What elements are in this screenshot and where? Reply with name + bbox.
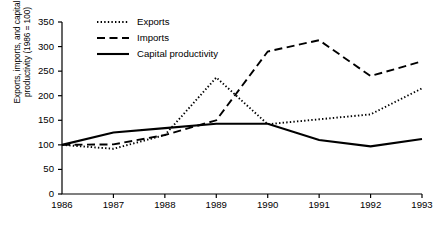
legend-label: Exports (137, 17, 170, 27)
legend-swatch-icon (96, 49, 130, 59)
series-line (62, 78, 422, 149)
line-chart: Exports, imports, and capital productivi… (0, 0, 443, 229)
legend-label: Capital productivity (137, 49, 218, 59)
legend-label: Imports (137, 33, 169, 43)
legend-swatch-icon (96, 17, 130, 27)
legend-item: Imports (96, 30, 218, 46)
legend-item: Exports (96, 14, 218, 30)
legend-item: Capital productivity (96, 46, 218, 62)
legend-swatch-icon (96, 33, 130, 43)
plot-area (0, 0, 443, 229)
chart-legend: ExportsImportsCapital productivity (96, 14, 218, 62)
